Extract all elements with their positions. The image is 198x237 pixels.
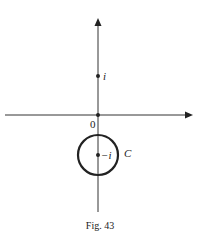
point-i-label: i bbox=[103, 70, 106, 82]
contour-c-label: C bbox=[124, 147, 132, 159]
imaginary-axis-arrow-icon bbox=[95, 18, 102, 26]
complex-plane-diagram: 0 i −i C Fig. 43 bbox=[0, 0, 198, 237]
figure-caption: Fig. 43 bbox=[86, 220, 114, 231]
point-i bbox=[96, 74, 100, 78]
real-axis-arrow-icon bbox=[185, 112, 193, 119]
origin-label: 0 bbox=[90, 118, 96, 130]
point-minus-i bbox=[96, 153, 100, 157]
origin-point bbox=[96, 113, 100, 117]
point-minus-i-label: −i bbox=[101, 149, 111, 161]
